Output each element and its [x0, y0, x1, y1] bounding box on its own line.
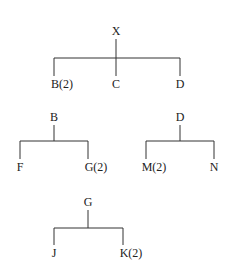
- subtree-g: [54, 210, 123, 245]
- node-child: D: [176, 77, 185, 91]
- node-child: C: [112, 77, 120, 91]
- subtree-d: [146, 125, 214, 159]
- node-root: G: [84, 195, 93, 209]
- node-root: B: [50, 110, 58, 124]
- node-root: X: [112, 24, 121, 38]
- node-child: G(2): [85, 160, 108, 174]
- node-child: K(2): [120, 246, 143, 260]
- subtree-b: [20, 125, 88, 159]
- node-child: J: [52, 246, 57, 260]
- node-root: D: [176, 110, 185, 124]
- tree-diagram: XB(2)CDBFG(2)DM(2)NGJK(2): [0, 0, 249, 272]
- subtree-x: [54, 39, 180, 76]
- node-child: B(2): [51, 77, 73, 91]
- node-child: N: [210, 160, 219, 174]
- node-child: M(2): [142, 160, 167, 174]
- node-child: F: [17, 160, 24, 174]
